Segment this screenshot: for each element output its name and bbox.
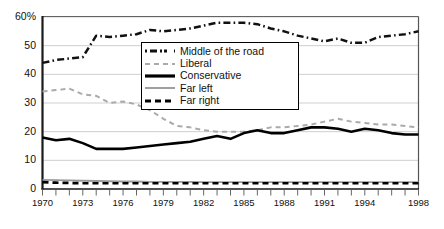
x-axis-tick-label: 1976 [103,198,143,208]
x-axis-tick-label: 1973 [63,198,103,208]
legend-item-middle-of-the-road: Middle of the road [145,45,294,57]
legend-item-far-left: Far left [145,82,294,94]
legend-swatch-icon [145,59,175,69]
y-axis-tick-label: 40 [0,68,36,78]
x-axis-tick-label: 1979 [143,198,183,208]
legend-swatch-icon [145,71,175,81]
legend-item-label: Far right [180,95,219,106]
x-axis-tick-label: 1985 [224,198,264,208]
legend-item-far-right: Far right [145,95,294,107]
legend-item-label: Far left [180,83,213,94]
x-axis-tick-label: 1998 [399,198,439,208]
x-axis-tick-label: 1988 [264,198,304,208]
legend-item-conservative: Conservative [145,70,294,82]
series-line-far-left [43,180,419,182]
x-axis-tick-label: 1982 [184,198,224,208]
x-axis-tick-label: 1970 [23,198,63,208]
y-axis-tick-label: 10 [0,154,36,164]
legend-item-liberal: Liberal [145,57,294,69]
legend-item-label: Liberal [180,58,212,69]
y-axis-tick-label: 60% [0,11,36,21]
legend-item-label: Conservative [180,70,241,81]
y-axis-tick-label: 20 [0,126,36,136]
plot-canvas [0,0,444,229]
x-axis-tick-label: 1994 [345,198,385,208]
chart-legend: Middle of the roadLiberalConservativeFar… [141,42,299,110]
line-chart: 0102030405060% 1970197319761979198219851… [0,0,444,229]
x-axis-tick-label: 1991 [305,198,345,208]
legend-swatch-icon [145,83,175,93]
series-line-conservative [43,127,419,149]
legend-swatch-icon [145,46,175,56]
legend-swatch-icon [145,96,175,106]
y-axis-tick-label: 0 [0,183,36,193]
y-axis-tick-label: 30 [0,97,36,107]
y-axis-tick-label: 50 [0,40,36,50]
legend-item-label: Middle of the road [180,46,264,57]
